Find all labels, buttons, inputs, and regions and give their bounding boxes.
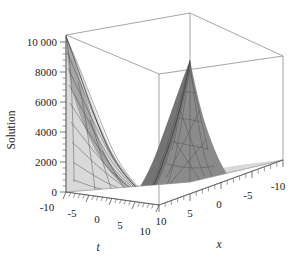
t-tick--5: [86, 195, 89, 202]
x-label-10: 10: [156, 215, 168, 227]
z-label-4000: 4000: [35, 126, 58, 138]
t-axis: [63, 192, 159, 212]
x-axis-title: x: [215, 238, 222, 250]
t-label--5: -5: [67, 207, 77, 219]
t-tick-5: [132, 202, 135, 209]
z-tick-labels: 10 000 8000 6000 4000 2000 0: [27, 36, 58, 198]
t-tick-0: [109, 198, 112, 205]
plot-canvas: 10 000 8000 6000 4000 2000 0 Solution: [0, 0, 290, 259]
t-label-10: 10: [140, 225, 152, 237]
t-tick--10: [63, 192, 66, 199]
z-label-10000: 10 000: [27, 36, 58, 48]
x-label-0: 0: [216, 198, 222, 210]
solution-surface: [66, 36, 283, 208]
t-axis-title: t: [96, 241, 100, 253]
t-label-0: 0: [94, 213, 100, 225]
t-tick-10: [156, 205, 159, 212]
frame-top-back: [66, 13, 283, 56]
z-label-2000: 2000: [35, 156, 58, 168]
t-label--10: -10: [40, 201, 55, 213]
x-label--5: -5: [243, 189, 253, 201]
surface-plot-figure: 10 000 8000 6000 4000 2000 0 Solution: [0, 0, 290, 259]
x-label-5: 5: [187, 207, 193, 219]
t-tick-labels: -10 -5 0 5 10: [40, 201, 151, 237]
z-axis-title: Solution: [5, 110, 17, 149]
z-label-6000: 6000: [35, 96, 58, 108]
t-axis-line: [66, 192, 159, 205]
z-minor-ticks: [63, 48, 67, 186]
t-label-5: 5: [117, 219, 123, 231]
z-label-0: 0: [52, 186, 58, 198]
z-axis: [60, 35, 66, 192]
x-label--10: -10: [271, 180, 286, 192]
z-label-8000: 8000: [35, 66, 58, 78]
